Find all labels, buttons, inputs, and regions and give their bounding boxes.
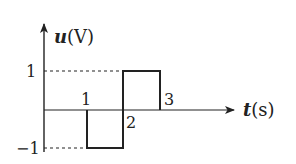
x-axis-label: t(s) <box>243 99 275 120</box>
y-axis-label: u(V) <box>54 26 94 47</box>
y-tick-label-1: 1 <box>26 62 36 81</box>
x-tick-label-1: 1 <box>81 90 91 109</box>
waveform-diagram: u(V) t(s) 1 −1 1 2 3 <box>0 0 296 164</box>
y-tick-label-minus-1: −1 <box>16 139 40 158</box>
x-tick-label-2: 2 <box>126 113 136 132</box>
x-tick-label-3: 3 <box>164 90 174 109</box>
